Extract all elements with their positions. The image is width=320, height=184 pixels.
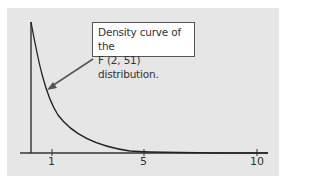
- tick-label-10: 10: [250, 155, 264, 168]
- annotation-box: Density curve of the F (2, 51) distribut…: [92, 22, 195, 57]
- tick-label-5: 5: [140, 155, 147, 168]
- annotation-line1: Density curve of the: [98, 25, 194, 53]
- tick-label-1: 1: [48, 155, 55, 168]
- callout-arrow: [52, 59, 93, 86]
- annotation-line2: F (2, 51) distribution.: [98, 53, 194, 81]
